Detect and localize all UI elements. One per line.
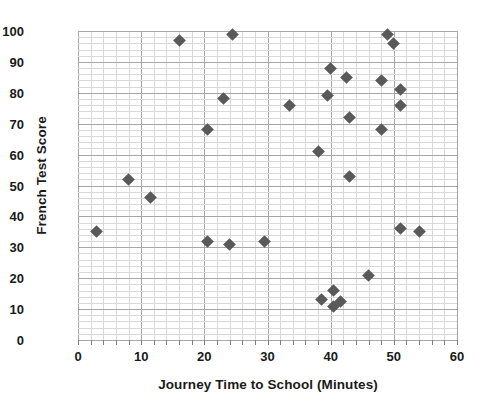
y-tick-label: 20 [0, 271, 24, 286]
gridline-horizontal-minor [78, 136, 457, 137]
data-point [340, 71, 353, 84]
x-tick-label: 10 [121, 349, 161, 364]
x-tickmark [204, 340, 205, 345]
scatter-chart: French Test Score Journey Time to School… [0, 0, 485, 409]
gridline-horizontal-minor [78, 43, 457, 44]
gridline-vertical-minor [103, 31, 104, 340]
gridline-vertical-minor [154, 31, 155, 340]
data-point [283, 99, 296, 112]
data-point [343, 170, 356, 183]
y-tick-label: 80 [0, 85, 24, 100]
x-tickmark [217, 340, 218, 345]
x-tickmark [255, 340, 256, 345]
data-point [413, 225, 426, 238]
x-tickmark [432, 340, 433, 345]
gridline-horizontal-minor [78, 68, 457, 69]
gridline-horizontal-minor [78, 241, 457, 242]
gridline-vertical-major [268, 31, 269, 340]
gridline-horizontal-minor [78, 315, 457, 316]
y-tick-label: 90 [0, 54, 24, 69]
gridline-horizontal-minor [78, 99, 457, 100]
data-point [122, 173, 135, 186]
gridline-horizontal-minor [78, 80, 457, 81]
gridline-vertical-minor [432, 31, 433, 340]
gridline-vertical-minor [91, 31, 92, 340]
gridline-vertical-major [78, 31, 79, 340]
data-point [258, 235, 271, 248]
gridline-horizontal-minor [78, 235, 457, 236]
x-tick-label: 0 [58, 349, 98, 364]
x-tickmark [116, 340, 117, 345]
y-axis-title: French Test Score [34, 51, 49, 301]
y-tick-label: 70 [0, 116, 24, 131]
data-point [324, 62, 337, 75]
data-point [387, 37, 400, 50]
gridline-horizontal-minor [78, 198, 457, 199]
gridline-vertical-minor [419, 31, 420, 340]
y-tick-label: 40 [0, 209, 24, 224]
gridline-vertical-minor [444, 31, 445, 340]
x-tickmark [78, 340, 79, 345]
data-point [362, 269, 375, 282]
x-tickmark [381, 340, 382, 345]
gridline-vertical-minor [356, 31, 357, 340]
gridline-vertical-minor [129, 31, 130, 340]
x-tickmark [356, 340, 357, 345]
x-tickmark [166, 340, 167, 345]
gridline-horizontal-minor [78, 334, 457, 335]
x-tickmark [305, 340, 306, 345]
gridline-vertical-minor [369, 31, 370, 340]
gridline-horizontal-minor [78, 167, 457, 168]
y-tick-label: 60 [0, 147, 24, 162]
x-tickmark [280, 340, 281, 345]
gridline-vertical-minor [406, 31, 407, 340]
data-point [334, 295, 347, 308]
gridline-vertical-minor [305, 31, 306, 340]
data-point [381, 28, 394, 41]
gridline-vertical-major [331, 31, 332, 340]
gridline-vertical-minor [217, 31, 218, 340]
x-tickmark [318, 340, 319, 345]
gridline-vertical-minor [192, 31, 193, 340]
gridline-horizontal-minor [78, 266, 457, 267]
gridlines [78, 31, 457, 340]
gridline-horizontal-minor [78, 192, 457, 193]
data-points-layer [78, 31, 457, 340]
x-tickmark [268, 340, 269, 345]
gridline-horizontal-minor [78, 50, 457, 51]
gridline-horizontal-minor [78, 260, 457, 261]
gridline-horizontal-minor [78, 272, 457, 273]
gridline-vertical-major [457, 31, 458, 340]
gridline-vertical-minor [116, 31, 117, 340]
data-point [394, 83, 407, 96]
data-point [315, 293, 328, 306]
data-point [321, 90, 334, 103]
x-tickmark [154, 340, 155, 345]
data-point [343, 111, 356, 124]
gridline-vertical-minor [255, 31, 256, 340]
data-point [91, 225, 104, 238]
gridline-horizontal-minor [78, 173, 457, 174]
gridline-horizontal-minor [78, 56, 457, 57]
x-tickmark [103, 340, 104, 345]
x-tickmark [293, 340, 294, 345]
gridline-vertical-minor [166, 31, 167, 340]
gridline-horizontal-minor [78, 87, 457, 88]
x-tickmark [343, 340, 344, 345]
x-tickmark [192, 340, 193, 345]
x-tickmark [242, 340, 243, 345]
x-tickmark [129, 340, 130, 345]
gridline-horizontal-minor [78, 210, 457, 211]
gridline-vertical-minor [230, 31, 231, 340]
y-tick-label: 10 [0, 302, 24, 317]
x-tick-label: 50 [374, 349, 414, 364]
y-tick-label: 100 [0, 24, 24, 39]
gridline-horizontal-minor [78, 204, 457, 205]
gridline-horizontal-minor [78, 284, 457, 285]
data-point [327, 284, 340, 297]
data-point [375, 74, 388, 87]
x-tickmark [230, 340, 231, 345]
x-tickmark [406, 340, 407, 345]
gridline-horizontal-major [78, 186, 457, 187]
gridline-horizontal-minor [78, 253, 457, 254]
